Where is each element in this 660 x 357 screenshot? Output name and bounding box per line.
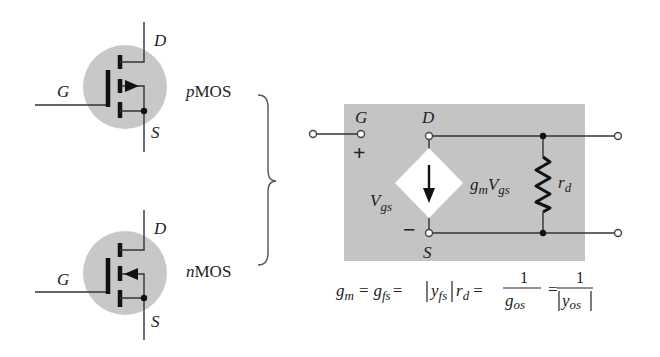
nmos-device-circle — [83, 231, 167, 315]
model-box — [344, 104, 585, 261]
nmos-source-label: S — [151, 312, 160, 331]
drain-node-terminal — [426, 133, 433, 140]
nmos-gate-label: G — [57, 270, 69, 289]
nmos-symbol: D G S nMOS — [35, 210, 231, 340]
rd-bottom-junction — [540, 230, 546, 236]
frac1-numerator: 1 — [520, 269, 528, 286]
equation-left-part: gm=gfs= — [336, 281, 402, 303]
diagram-canvas: D G S pMOS D G S nMOS — [0, 0, 660, 357]
pmos-symbol: D G S pMOS — [35, 22, 231, 152]
rd-term: rd= — [456, 281, 483, 303]
pmos-source-label: S — [151, 123, 160, 142]
nmos-source-junction — [141, 295, 147, 301]
pmos-type-label: pMOS — [185, 82, 231, 101]
equivalent-circuit: G D S + − Vgs gmVgs rd — [310, 104, 622, 262]
pmos-source-junction — [141, 108, 147, 114]
pmos-drain-label: D — [153, 31, 167, 50]
frac2-numerator: 1 — [576, 269, 584, 286]
nmos-type-label: nMOS — [186, 262, 231, 281]
plus-sign: + — [353, 140, 366, 165]
yfs-term: yfs — [429, 281, 447, 303]
parameter-equation: gm=gfs= yfs rd= 1 gos = 1 yos — [336, 269, 593, 312]
drain-output-terminal — [615, 133, 622, 140]
frac1-denominator: gos — [505, 291, 525, 312]
minus-sign: − — [403, 217, 416, 242]
grouping-brace — [258, 95, 276, 265]
pmos-gate-label: G — [57, 82, 69, 101]
gate-input-terminal — [310, 131, 317, 138]
gate-node-terminal — [358, 131, 365, 138]
frac2-denominator: yos — [560, 291, 581, 312]
model-gate-label: G — [355, 108, 367, 127]
source-output-terminal — [615, 230, 622, 237]
model-drain-label: D — [421, 108, 435, 127]
nmos-drain-label: D — [153, 219, 167, 238]
rd-top-junction — [540, 133, 546, 139]
model-source-label: S — [423, 243, 432, 262]
source-node-terminal — [426, 230, 433, 237]
equals-4: = — [548, 280, 558, 299]
